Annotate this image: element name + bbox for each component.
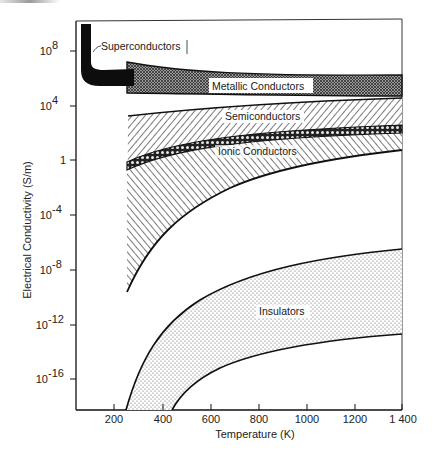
svg-text:800: 800 [250, 413, 268, 425]
conductivity-chart: Superconductors Metallic Conductors Semi… [0, 0, 436, 455]
svg-text:1200: 1200 [343, 413, 367, 425]
y-axis-title: Electrical Conductivity (S/m) [21, 161, 33, 299]
svg-text:-16: -16 [48, 367, 64, 379]
y-axis [70, 51, 76, 379]
svg-text:-4: -4 [52, 203, 62, 215]
svg-text:4: 4 [52, 94, 58, 106]
y-tick-labels: 10 8 10 4 1 10 -4 10 -8 10 -12 10 -16 [36, 39, 66, 385]
svg-text:400: 400 [154, 413, 172, 425]
svg-text:10: 10 [40, 264, 52, 276]
svg-text:200: 200 [105, 413, 123, 425]
insulators-label: Insulators [259, 305, 305, 317]
metallic-conductors-label: Metallic Conductors [212, 80, 304, 92]
svg-text:10: 10 [36, 319, 48, 331]
svg-text:1 400: 1 400 [389, 413, 417, 425]
ionic-conductors-label: Ionic Conductors [218, 145, 297, 157]
svg-text:-8: -8 [52, 258, 62, 270]
x-axis-title: Temperature (K) [215, 428, 294, 440]
svg-text:10: 10 [40, 45, 52, 57]
superconductors-label: Superconductors [101, 40, 180, 52]
svg-text:10: 10 [36, 373, 48, 385]
svg-text:8: 8 [52, 39, 58, 51]
superconductors-label-group: Superconductors [93, 40, 187, 54]
x-tick-labels: 200 400 600 800 1000 1200 1 400 [105, 413, 417, 425]
svg-text:10: 10 [40, 209, 52, 221]
superconductors-band [81, 24, 134, 86]
semiconductors-label: Semiconductors [225, 110, 300, 122]
svg-text:10: 10 [40, 100, 52, 112]
svg-text:-12: -12 [48, 313, 64, 325]
svg-text:1000: 1000 [295, 413, 319, 425]
svg-text:1: 1 [60, 154, 66, 166]
svg-text:600: 600 [202, 413, 220, 425]
